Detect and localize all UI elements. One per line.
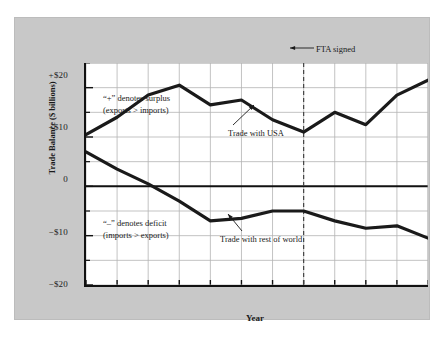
surplus-note-line1: “+” denotes surplus bbox=[103, 93, 170, 103]
chart-panel: +$20 +$10 0 −$10 −$20 Trade Balance ($ b… bbox=[14, 17, 430, 320]
deficit-note-line1: “–” denotes deficit bbox=[103, 218, 167, 228]
row-series-label: Trade with rest of world bbox=[220, 233, 302, 245]
surplus-note-line2: (exports > imports) bbox=[103, 105, 169, 115]
fta-event-label: FTA signed bbox=[316, 43, 355, 55]
surplus-note: “+” denotes surplus(exports > imports) bbox=[103, 92, 170, 116]
fta-arrow bbox=[290, 46, 314, 50]
ytick-label-neg20: −$20 bbox=[28, 279, 68, 289]
y-axis-title: Trade Balance ($ billions) bbox=[47, 43, 57, 213]
figure-root: +$20 +$10 0 −$10 −$20 Trade Balance ($ b… bbox=[0, 0, 444, 337]
deficit-note-line2: (imports > exports) bbox=[103, 230, 169, 240]
ytick-label-neg10: −$10 bbox=[28, 227, 68, 237]
deficit-note: “–” denotes deficit(imports > exports) bbox=[103, 217, 169, 241]
x-axis-title: Year bbox=[84, 313, 426, 323]
usa-series-label: Trade with USA bbox=[228, 127, 284, 139]
